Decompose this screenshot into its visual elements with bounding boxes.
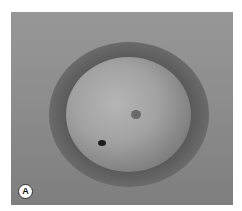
nodule-dome [66, 57, 191, 172]
clinical-photo [11, 12, 233, 205]
lesion-spot [131, 110, 141, 119]
punctum-spot [98, 140, 106, 146]
panel-label: A [18, 184, 33, 199]
